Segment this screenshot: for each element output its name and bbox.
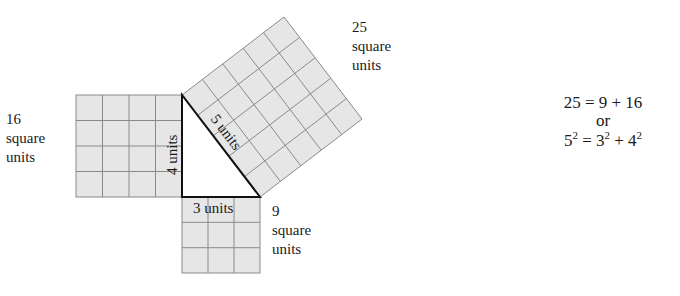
area-unit: square <box>352 37 391 56</box>
area-value: 25 <box>352 18 391 37</box>
area-value: 9 <box>272 202 311 221</box>
eq-sign: = <box>582 131 592 150</box>
side-label-vertical: 4 units <box>164 134 180 175</box>
eq-term: 42 <box>628 131 642 150</box>
area-unit: units <box>352 56 391 75</box>
label-25-square-units: 25 square units <box>352 18 391 75</box>
side-label-horizontal: 3 units <box>193 200 234 216</box>
area-unit: units <box>272 240 311 259</box>
area-value: 16 <box>6 110 45 129</box>
eq-plus: + <box>614 131 624 150</box>
label-16-square-units: 16 square units <box>6 110 45 167</box>
equation-line-2: 52 = 32 + 42 <box>518 130 680 152</box>
label-9-square-units: 9 square units <box>272 202 311 259</box>
eq-term: 52 <box>564 131 578 150</box>
area-unit: square <box>6 129 45 148</box>
area-unit: units <box>6 148 45 167</box>
area-unit: square <box>272 221 311 240</box>
eq-term: 32 <box>596 131 610 150</box>
equation-or: or <box>518 110 680 132</box>
